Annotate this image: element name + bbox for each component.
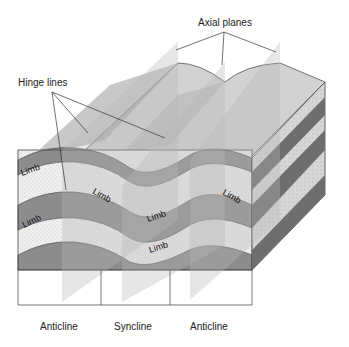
anticline-right-label: Anticline (190, 321, 228, 332)
syncline-label: Syncline (114, 321, 152, 332)
axial-planes-label: Axial planes (198, 17, 252, 28)
anticline-left-label: Anticline (40, 321, 78, 332)
hinge-lines-label: Hinge lines (18, 77, 67, 88)
fold-block-diagram: Axial planes Hinge lines Limb Limb Limb … (0, 0, 349, 347)
